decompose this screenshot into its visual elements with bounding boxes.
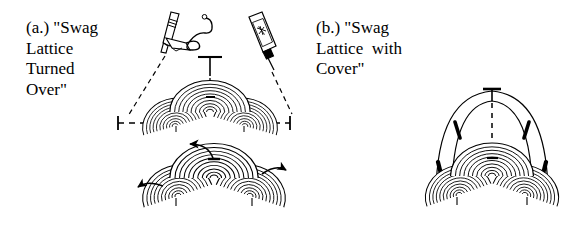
cover-arc-outer [436,91,548,194]
panel-b-caption: (b.) "SwagLattice withCover" [316,18,402,80]
center-t-marker [198,57,222,100]
swag-lattice-dome-upper [135,81,284,136]
glue-gun-icon [161,12,212,53]
center-t-marker-b [483,89,501,160]
dashed-leader-lines [128,56,292,116]
width-dimension-line [118,116,290,130]
panel-a-caption: (a.) "SwagLatticeTurnedOver" [26,18,98,100]
cover-arc-inner [452,101,532,183]
swag-lattice-dome-lower [134,144,294,208]
panel-b-caption-line-2: Lattice with [316,39,402,60]
cover-arc-group [436,91,548,194]
panel-a-caption-line-3: Turned [26,59,98,80]
arrow-up-center [190,144,213,158]
figure-canvas: (a.) "SwagLatticeTurnedOver" (b.) "SwagL… [0,0,566,227]
panel-b-caption-line-1: (b.) "Swag [316,18,402,39]
rotation-arrows [138,144,286,187]
panel-a-caption-line-4: Over" [26,80,98,101]
arrow-right [262,168,286,174]
panel-a-caption-line-1: (a.) "Swag [26,18,98,39]
panel-a-caption-line-2: Lattice [26,39,98,60]
arrow-left [138,183,163,187]
swag-lattice-dome-covered [417,143,566,206]
panel-b-caption-line-3: Cover" [316,59,402,80]
glue-bottle-icon [249,12,276,70]
